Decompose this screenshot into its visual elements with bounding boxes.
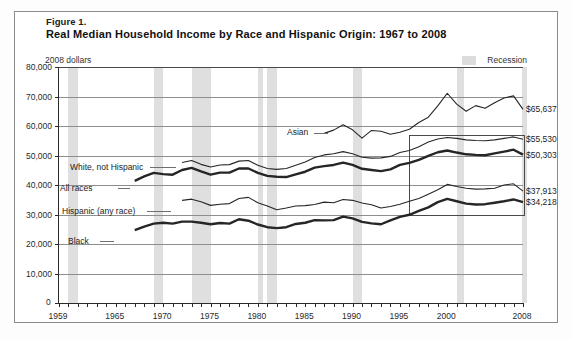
series-line-black: [135, 199, 523, 230]
x-tick-mark: [419, 303, 420, 307]
x-tick-mark: [438, 303, 439, 307]
x-tick-mark: [267, 303, 268, 307]
x-tick-mark: [296, 303, 297, 307]
x-tick-mark: [59, 303, 60, 307]
x-tick-mark: [353, 303, 354, 307]
x-tick-label: 1975: [196, 311, 224, 321]
x-tick-label: 1965: [101, 311, 129, 321]
y-tick-label: 30,000: [26, 210, 52, 220]
end-value-label-black: $34,218: [526, 197, 557, 207]
x-tick-mark: [116, 303, 117, 307]
series-label-all-races: All races: [60, 183, 93, 193]
x-tick-mark: [135, 303, 136, 307]
end-value-label-asian: $65,637: [526, 104, 557, 114]
x-tick-mark: [390, 303, 391, 307]
x-tick-mark: [485, 303, 486, 307]
x-tick-mark: [182, 303, 183, 307]
y-tick-label: 20,000: [26, 239, 52, 249]
x-tick-label: 2000: [432, 311, 460, 321]
annotation-leader-line: [118, 188, 130, 189]
x-tick-mark: [334, 303, 335, 307]
x-tick-label: 1995: [385, 311, 413, 321]
x-tick-label: 2008: [508, 311, 536, 321]
x-tick-label: 1990: [338, 311, 366, 321]
x-tick-mark: [343, 303, 344, 307]
x-tick-label: 1959: [44, 311, 72, 321]
x-tick-mark: [239, 303, 240, 307]
figure-page: Figure 1. Real Median Household Income b…: [0, 0, 572, 339]
y-tick-label: 70,000: [26, 92, 52, 102]
end-value-label-hispanic-any-race: $37,913: [526, 186, 557, 196]
x-tick-mark: [78, 303, 79, 307]
x-tick-mark: [97, 303, 98, 307]
page-title: Real Median Household Income by Race and…: [46, 28, 447, 40]
end-value-label-all-races: $50,303: [526, 150, 557, 160]
recession-legend-swatch: [462, 56, 476, 65]
y-tick-label: 40,000: [26, 180, 52, 190]
annotation-leader-line: [147, 211, 171, 212]
x-tick-mark: [106, 303, 107, 307]
series-label-white: White, not Hispanic: [70, 162, 143, 172]
x-tick-label: 1980: [243, 311, 271, 321]
series-lines: [59, 67, 523, 303]
x-tick-mark: [305, 303, 306, 307]
series-line-hispanic-any-race: [182, 184, 523, 210]
x-tick-mark: [362, 303, 363, 307]
x-tick-mark: [163, 303, 164, 307]
x-tick-mark: [457, 303, 458, 307]
series-label-black: Black: [68, 236, 89, 246]
x-tick-mark: [211, 303, 212, 307]
series-line-asian: [324, 93, 523, 138]
x-tick-mark: [523, 303, 524, 307]
x-tick-mark: [495, 303, 496, 307]
annotation-leader-line: [314, 133, 328, 134]
x-tick-mark: [286, 303, 287, 307]
x-tick-mark: [447, 303, 448, 307]
y-tick-label: 50,000: [26, 151, 52, 161]
x-tick-mark: [476, 303, 477, 307]
x-tick-mark: [277, 303, 278, 307]
x-tick-mark: [324, 303, 325, 307]
x-tick-mark: [466, 303, 467, 307]
series-label-hispanic: Hispanic (any race): [62, 206, 135, 216]
x-tick-mark: [229, 303, 230, 307]
x-tick-mark: [409, 303, 410, 307]
series-label-asian: Asian: [287, 127, 308, 137]
x-tick-mark: [400, 303, 401, 307]
y-tick-label: 10,000: [26, 269, 52, 279]
annotation-leader-line: [100, 241, 114, 242]
x-tick-mark: [144, 303, 145, 307]
x-tick-mark: [258, 303, 259, 307]
x-tick-mark: [201, 303, 202, 307]
y-tick-label: 80,000: [26, 62, 52, 72]
x-tick-mark: [514, 303, 515, 307]
x-tick-mark: [381, 303, 382, 307]
recession-legend-label: Recession: [487, 55, 527, 65]
plot-area: [58, 67, 523, 304]
x-tick-mark: [428, 303, 429, 307]
x-tick-mark: [220, 303, 221, 307]
x-tick-label: 1985: [290, 311, 318, 321]
plot-inner: [59, 67, 523, 303]
annotation-leader-line: [150, 167, 176, 168]
x-tick-mark: [173, 303, 174, 307]
x-tick-mark: [125, 303, 126, 307]
y-tick-label: 60,000: [26, 121, 52, 131]
x-tick-mark: [68, 303, 69, 307]
x-tick-mark: [315, 303, 316, 307]
x-tick-mark: [154, 303, 155, 307]
end-value-label-white-not-hispanic: $55,530: [526, 134, 557, 144]
x-tick-mark: [87, 303, 88, 307]
x-tick-label: 1970: [148, 311, 176, 321]
x-tick-mark: [371, 303, 372, 307]
x-tick-mark: [504, 303, 505, 307]
x-tick-mark: [248, 303, 249, 307]
x-tick-mark: [192, 303, 193, 307]
